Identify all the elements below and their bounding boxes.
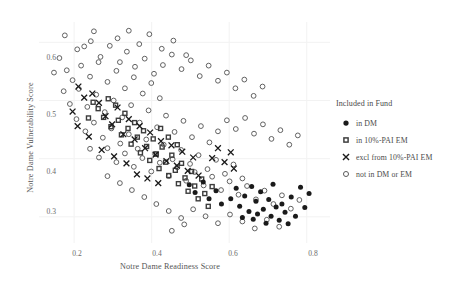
data-point (280, 193, 285, 198)
data-point (251, 93, 256, 98)
data-point (187, 182, 192, 187)
data-point (255, 211, 260, 216)
data-point (107, 43, 112, 48)
data-point (100, 135, 105, 140)
data-point (207, 196, 212, 201)
data-point (188, 58, 193, 63)
data-point (151, 137, 155, 141)
data-point (228, 196, 233, 201)
legend-item[interactable]: in DM (336, 115, 451, 131)
legend-item[interactable]: not in DM or EM (336, 166, 451, 182)
data-point (242, 193, 247, 198)
data-point (144, 137, 149, 142)
data-point (86, 134, 92, 140)
data-point (142, 56, 147, 61)
data-point (283, 210, 288, 215)
data-point (134, 171, 140, 177)
filled-circle-marker (336, 116, 356, 130)
data-point (161, 63, 166, 68)
data-point (286, 221, 291, 226)
legend-item[interactable]: in 10%-PAI EM (336, 132, 451, 148)
data-point (147, 32, 152, 37)
data-point (307, 191, 312, 196)
data-point (222, 159, 228, 165)
data-point (88, 146, 93, 151)
legend-item-label: not in DM or EM (356, 170, 412, 179)
data-point (203, 192, 207, 196)
data-point (99, 147, 105, 153)
data-point (264, 221, 269, 226)
data-point (130, 188, 135, 193)
data-point (196, 153, 201, 158)
data-point (131, 164, 136, 169)
data-point (193, 190, 198, 195)
data-point (184, 53, 189, 58)
data-point (233, 86, 238, 91)
data-point (131, 75, 136, 80)
legend-item-label: in 10%-PAI EM (356, 136, 408, 145)
data-point (164, 113, 169, 118)
data-point (277, 224, 282, 229)
data-point (159, 126, 163, 130)
data-point (106, 97, 110, 101)
cross-marker (336, 150, 356, 164)
data-point (203, 214, 208, 219)
data-point (266, 197, 271, 202)
legend-item[interactable]: excl from 10%-PAI EM (336, 149, 451, 165)
data-point (81, 95, 87, 101)
data-point (75, 123, 81, 129)
data-point (293, 214, 298, 219)
data-point (170, 153, 174, 157)
data-point (186, 189, 190, 193)
data-point (140, 156, 145, 161)
data-point (157, 167, 161, 171)
data-point (98, 54, 103, 59)
data-point (118, 141, 123, 146)
data-point (158, 138, 164, 144)
data-point (67, 102, 72, 107)
legend-title: Included in Fund (336, 99, 451, 108)
data-point (287, 142, 292, 147)
data-point (252, 131, 257, 136)
data-point (279, 202, 284, 207)
legend-item-label: excl from 10%-PAI EM (356, 153, 432, 162)
data-point (181, 118, 186, 123)
data-point (243, 116, 248, 121)
data-point (123, 111, 127, 115)
data-point (199, 124, 204, 129)
data-point (246, 209, 251, 214)
data-point (196, 197, 200, 201)
data-point (343, 154, 349, 160)
data-point (145, 176, 151, 182)
data-point (97, 155, 102, 160)
data-point (298, 185, 303, 190)
data-point (179, 67, 184, 72)
data-point (288, 206, 293, 211)
data-point (179, 216, 184, 221)
data-point (224, 70, 229, 75)
scatter-plot-figure: 0.2 0.4 0.6 0.8 0.6 0.5 0.4 0.3 Notre Da… (0, 0, 453, 285)
data-point (343, 171, 348, 176)
data-point (236, 192, 241, 197)
gridlines (39, 22, 330, 243)
data-point (116, 118, 120, 122)
data-point (96, 60, 101, 65)
data-point (184, 178, 189, 183)
series-not-in-dm-or-em (52, 28, 302, 233)
data-point (154, 202, 159, 207)
data-point (182, 222, 187, 227)
data-point (216, 221, 221, 226)
data-point (297, 198, 302, 203)
data-point (188, 162, 193, 167)
data-point (96, 107, 100, 111)
data-point (219, 188, 224, 193)
data-point (74, 117, 79, 122)
data-point (129, 103, 134, 108)
data-point (57, 56, 62, 61)
data-point (242, 77, 247, 82)
data-point (240, 215, 245, 220)
data-point (271, 182, 276, 187)
data-point (117, 60, 122, 65)
data-point (138, 151, 142, 155)
data-point (86, 116, 90, 120)
